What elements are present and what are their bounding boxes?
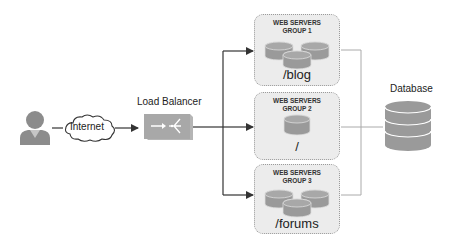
database-icon xyxy=(383,100,433,152)
group-3-path: /forums xyxy=(255,216,339,231)
database-label: Database xyxy=(390,83,433,94)
group-1-path: /blog xyxy=(255,67,339,82)
web-server-group-2: WEB SERVERS GROUP 2 / xyxy=(254,92,340,160)
load-balancer-label: Load Balancer xyxy=(137,96,202,107)
web-server-group-1: WEB SERVERS GROUP 1 /blog xyxy=(254,14,340,86)
internet-cloud: Internet xyxy=(62,112,118,144)
web-server-group-3: WEB SERVERS GROUP 3 /forums xyxy=(254,164,340,234)
load-balancer-icon xyxy=(142,112,194,142)
group-2-path: / xyxy=(255,139,339,154)
user-icon xyxy=(18,108,52,146)
internet-label: Internet xyxy=(70,121,104,132)
